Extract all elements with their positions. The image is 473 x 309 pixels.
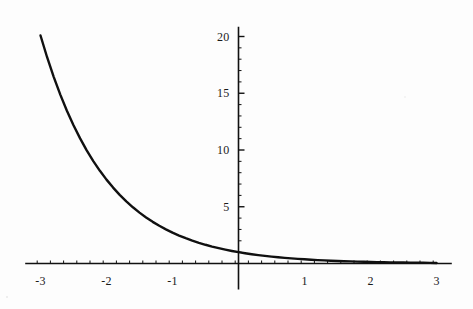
x-axis-tick-label: 1	[301, 274, 307, 289]
x-axis-tick-label: -2	[101, 274, 111, 289]
axes-group	[25, 27, 452, 290]
x-axis-tick-label: 2	[367, 274, 373, 289]
x-axis-tick-label: -1	[167, 274, 177, 289]
exponential-decay-plot-figure: -3-2-1123 5101520	[0, 0, 473, 309]
plot-canvas	[0, 0, 473, 309]
y-axis-tick-label: 10	[217, 143, 229, 158]
scan-speck	[6, 296, 8, 298]
scan-speck	[404, 96, 406, 98]
x-axis-tick-label: -3	[35, 274, 45, 289]
y-axis-tick-label: 15	[217, 86, 229, 101]
y-axis-tick-label: 20	[217, 29, 229, 44]
y-axis-tick-label: 5	[223, 199, 229, 214]
x-axis-tick-label: 3	[433, 274, 439, 289]
y-axis-tick-marks	[239, 37, 245, 253]
